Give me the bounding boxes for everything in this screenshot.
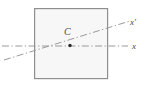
x-prime-axis-label: x′ bbox=[130, 18, 136, 27]
cross-section-square bbox=[35, 9, 108, 79]
figure-canvas: x′ x C bbox=[0, 0, 148, 87]
diagram-svg bbox=[0, 0, 148, 87]
centroid-label: C bbox=[64, 27, 71, 37]
centroid-marker bbox=[68, 44, 71, 47]
x-axis-label: x bbox=[132, 42, 136, 51]
